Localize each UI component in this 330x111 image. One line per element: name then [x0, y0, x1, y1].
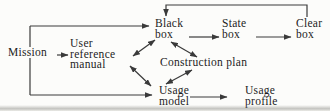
node-label-mission: Mission [7, 47, 49, 58]
box-structure-diagram: MissionUser reference manualBlack boxSta… [0, 0, 330, 111]
node-label-state-box: State box [222, 18, 247, 39]
edge-construction-plan-usage-model [166, 70, 192, 84]
edge-black-box-construction-plan [171, 42, 197, 57]
edge-user-reference-manual-usage-model [130, 66, 151, 86]
node-label-black-box: Black box [155, 18, 183, 39]
node-label-clear-box: Clear box [296, 18, 322, 39]
edge-user-reference-manual-black-box [133, 40, 155, 56]
node-label-usage-model: Usage model [159, 85, 189, 106]
node-label-user-reference-manual: User reference manual [70, 38, 115, 70]
node-label-construction-plan: Construction plan [160, 57, 247, 68]
node-label-usage-profile: Usage profile [245, 85, 278, 106]
edge-clear-box-to-black-box [166, 5, 307, 17]
